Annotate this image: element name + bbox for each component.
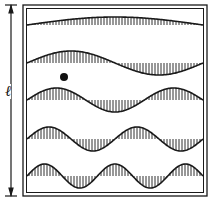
length-dimension-arrow xyxy=(5,5,17,196)
wave-mode-2 xyxy=(27,51,203,75)
wave-mode-4 xyxy=(27,127,203,151)
length-label: ℓ xyxy=(5,84,11,99)
wave-modes xyxy=(27,17,203,188)
wave-mode-5 xyxy=(27,164,203,188)
wave-mode-1 xyxy=(27,17,203,25)
marker-dot xyxy=(60,73,68,81)
inner-frame xyxy=(27,9,204,193)
standing-waves-diagram xyxy=(0,0,214,205)
wave-mode-3 xyxy=(27,88,203,112)
